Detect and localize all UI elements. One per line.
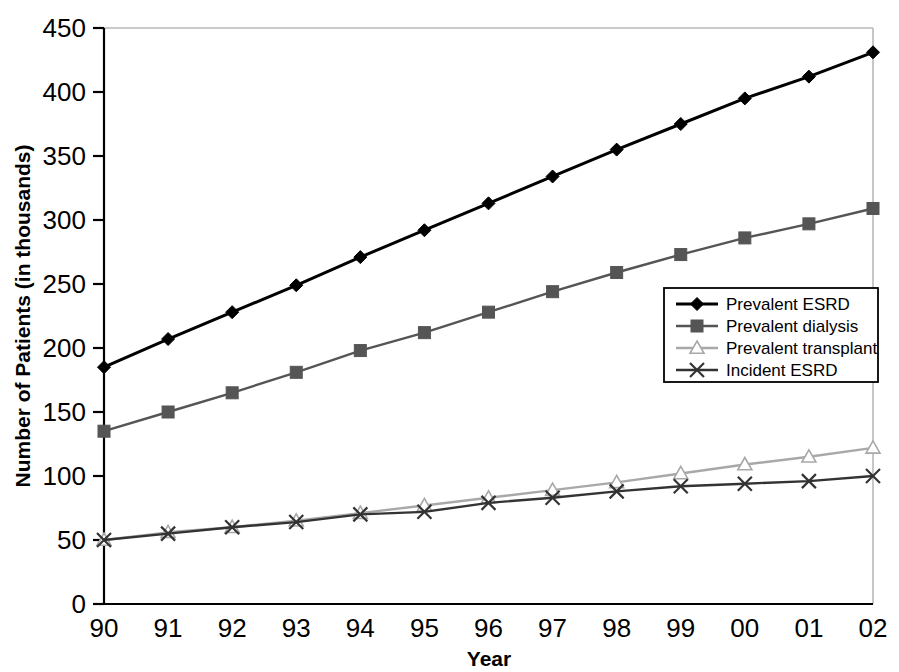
series-marker bbox=[482, 197, 495, 210]
chart-legend: Prevalent ESRDPrevalent dialysisPrevalen… bbox=[664, 288, 878, 382]
series-marker bbox=[290, 279, 303, 292]
legend-swatch-marker bbox=[691, 320, 703, 332]
x-tick-label: 98 bbox=[602, 613, 631, 643]
x-axis-title: Year bbox=[467, 647, 511, 670]
line-chart: 050100150200250300350400450 909192939495… bbox=[0, 0, 899, 672]
legend-label: Prevalent ESRD bbox=[726, 295, 850, 314]
series-marker bbox=[354, 345, 366, 357]
data-series bbox=[97, 469, 880, 547]
x-tick-label: 00 bbox=[730, 613, 759, 643]
y-tick-label: 100 bbox=[43, 461, 86, 491]
y-tick-label: 150 bbox=[43, 397, 86, 427]
x-tick-label: 99 bbox=[666, 613, 695, 643]
series-marker bbox=[546, 170, 559, 183]
x-tick-label: 96 bbox=[474, 613, 503, 643]
series-marker bbox=[162, 406, 174, 418]
series-marker bbox=[354, 251, 367, 264]
series-marker bbox=[738, 92, 751, 105]
chart-container: 050100150200250300350400450 909192939495… bbox=[0, 0, 899, 672]
x-tick-label: 92 bbox=[218, 613, 247, 643]
series-marker bbox=[418, 327, 430, 339]
y-tick-label: 350 bbox=[43, 141, 86, 171]
x-tick-label: 91 bbox=[154, 613, 183, 643]
series-marker bbox=[610, 143, 623, 156]
series-marker bbox=[675, 249, 687, 261]
series-line bbox=[104, 476, 873, 540]
x-tick-label: 90 bbox=[90, 613, 119, 643]
x-tick-label: 01 bbox=[794, 613, 823, 643]
x-tick-label: 95 bbox=[410, 613, 439, 643]
x-tick-label: 02 bbox=[859, 613, 888, 643]
series-marker bbox=[226, 387, 238, 399]
y-tick-label: 0 bbox=[72, 589, 86, 619]
y-axis: 050100150200250300350400450 bbox=[43, 13, 104, 619]
y-tick-label: 200 bbox=[43, 333, 86, 363]
legend-label: Incident ESRD bbox=[726, 361, 838, 380]
series-marker bbox=[162, 333, 175, 346]
x-tick-label: 94 bbox=[346, 613, 375, 643]
series-marker bbox=[867, 46, 880, 59]
series-marker bbox=[290, 366, 302, 378]
series-marker bbox=[98, 361, 111, 374]
y-tick-label: 450 bbox=[43, 13, 86, 43]
y-tick-label: 300 bbox=[43, 205, 86, 235]
series-marker bbox=[866, 441, 880, 453]
series-marker bbox=[483, 306, 495, 318]
series-marker bbox=[674, 118, 687, 131]
series-marker bbox=[98, 425, 110, 437]
series-marker bbox=[418, 224, 431, 237]
series-marker bbox=[802, 70, 815, 83]
y-tick-label: 250 bbox=[43, 269, 86, 299]
legend-label: Prevalent dialysis bbox=[726, 317, 858, 336]
x-axis: 90919293949596979899000102 bbox=[90, 604, 888, 643]
series-marker bbox=[226, 306, 239, 319]
series-marker bbox=[547, 286, 559, 298]
x-tick-label: 93 bbox=[282, 613, 311, 643]
y-tick-label: 50 bbox=[57, 525, 86, 555]
x-tick-label: 97 bbox=[538, 613, 567, 643]
y-tick-label: 400 bbox=[43, 77, 86, 107]
series-marker bbox=[803, 218, 815, 230]
series-marker bbox=[867, 202, 879, 214]
y-axis-title: Number of Patients (in thousands) bbox=[11, 144, 34, 487]
series-marker bbox=[739, 232, 751, 244]
series-marker bbox=[611, 266, 623, 278]
legend-label: Prevalent transplant bbox=[726, 339, 877, 358]
